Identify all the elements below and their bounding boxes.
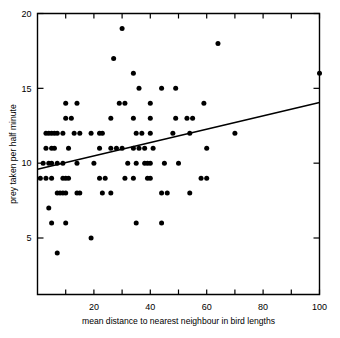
data-point (173, 86, 178, 91)
y-axis-tick-labels: 5101520 (21, 9, 31, 244)
data-point (108, 191, 113, 196)
data-point (91, 161, 96, 166)
data-point (100, 131, 105, 136)
data-point (43, 146, 48, 151)
data-point (108, 146, 113, 151)
data-point (74, 101, 79, 106)
x-tick-label: 20 (89, 302, 99, 312)
y-axis-label: prey taken per half minute (8, 104, 18, 204)
data-point (52, 146, 57, 151)
data-point (232, 131, 237, 136)
data-point (103, 176, 108, 181)
data-point (49, 176, 54, 181)
data-point (148, 116, 153, 121)
data-point (63, 116, 68, 121)
data-point (137, 86, 142, 91)
data-point (43, 176, 48, 181)
data-point (66, 146, 71, 151)
scatter-plot-figure: 20406080100 5101520 mean distance to nea… (0, 0, 340, 338)
data-point (108, 116, 113, 121)
data-point (176, 161, 181, 166)
data-point (63, 191, 68, 196)
y-axis-ticks (38, 14, 320, 239)
data-point (159, 221, 164, 226)
data-point (117, 101, 122, 106)
data-point (97, 176, 102, 181)
data-point (201, 101, 206, 106)
data-point (131, 116, 136, 121)
data-point (55, 131, 60, 136)
data-point (60, 131, 65, 136)
data-point (134, 161, 139, 166)
plot-frame (38, 14, 320, 295)
data-point (148, 131, 153, 136)
data-point (134, 221, 139, 226)
data-point (89, 131, 94, 136)
data-point (134, 131, 139, 136)
data-point (69, 116, 74, 121)
axes-frame (38, 14, 320, 295)
data-point (89, 236, 94, 241)
data-point (122, 176, 127, 181)
data-point (131, 176, 136, 181)
data-point (139, 131, 144, 136)
data-point (199, 176, 204, 181)
data-point (190, 116, 195, 121)
data-point (77, 131, 82, 136)
data-point (97, 146, 102, 151)
data-point (148, 161, 153, 166)
data-point (77, 191, 82, 196)
x-axis-tick-labels: 20406080100 (89, 302, 327, 312)
data-point (66, 176, 71, 181)
data-point (142, 146, 147, 151)
y-tick-label: 20 (21, 9, 31, 19)
data-point (100, 191, 105, 196)
data-point (170, 131, 175, 136)
data-point (148, 176, 153, 181)
data-point (151, 146, 156, 151)
data-point (204, 176, 209, 181)
data-point (204, 146, 209, 151)
regression-line (38, 103, 320, 170)
data-points-layer (38, 26, 322, 256)
data-point (74, 161, 79, 166)
data-point (173, 116, 178, 121)
data-point (125, 161, 130, 166)
data-point (131, 71, 136, 76)
data-point (72, 131, 77, 136)
data-point (159, 191, 164, 196)
data-point (55, 250, 60, 255)
chart-svg: 20406080100 5101520 mean distance to nea… (0, 0, 340, 338)
y-tick-label: 5 (26, 233, 31, 243)
data-point (120, 26, 125, 31)
data-point (165, 191, 170, 196)
data-point (122, 101, 127, 106)
x-tick-label: 80 (258, 302, 268, 312)
x-tick-label: 60 (202, 302, 212, 312)
x-axis-label: mean distance to nearest neighbour in bi… (82, 316, 275, 326)
y-tick-label: 10 (21, 158, 31, 168)
data-point (63, 101, 68, 106)
x-tick-label: 40 (145, 302, 155, 312)
data-point (137, 146, 142, 151)
data-point (317, 71, 322, 76)
data-point (41, 161, 46, 166)
x-tick-label: 100 (312, 302, 327, 312)
data-point (162, 161, 167, 166)
data-point (159, 86, 164, 91)
data-point (184, 116, 189, 121)
data-point (111, 56, 116, 61)
data-point (215, 41, 220, 46)
data-point (49, 221, 54, 226)
data-point (63, 221, 68, 226)
data-point (38, 176, 43, 181)
y-tick-label: 15 (21, 84, 31, 94)
data-point (148, 101, 153, 106)
data-point (46, 206, 51, 211)
data-point (187, 191, 192, 196)
